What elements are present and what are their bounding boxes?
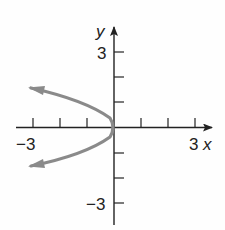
y-min-label: −3	[86, 195, 105, 214]
curve-arrow-bottom	[28, 159, 45, 168]
y-axis-label: y	[95, 22, 106, 41]
x-max-label: 3	[189, 135, 198, 154]
curve-arrow-top	[28, 86, 45, 95]
x-axis-label: x	[202, 135, 212, 154]
x-min-label: −3	[16, 135, 35, 154]
coordinate-plane: y 3 −3 3 x −3	[0, 0, 225, 230]
graph: y 3 −3 3 x −3	[0, 0, 225, 230]
y-max-label: 3	[97, 44, 106, 63]
